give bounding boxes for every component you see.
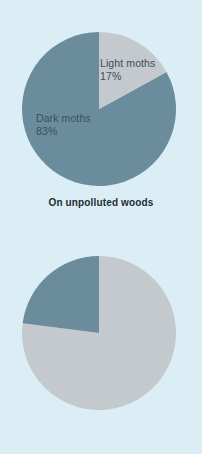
pie-label-light-unpolluted: Light moths 17% <box>100 57 155 82</box>
pie-label-light-unpolluted-percent: 17% <box>100 70 155 83</box>
pie-figure-unpolluted: Light moths 17% Dark moths 83% On unpoll… <box>0 0 202 227</box>
pie-label-dark-unpolluted: Dark moths 83% <box>36 112 91 137</box>
pie-svg-polluted <box>21 255 177 411</box>
pie-figure-polluted: Dark moths 23% Light moths 77% On pollut… <box>0 227 202 454</box>
pie-label-dark-unpolluted-percent: 83% <box>36 125 91 138</box>
pie-label-light-unpolluted-name: Light moths <box>100 57 155 69</box>
pie-chart-unpolluted <box>21 31 177 187</box>
pie-slice-dark-polluted <box>23 256 99 333</box>
pie-svg-unpolluted <box>21 31 177 187</box>
pie-caption-unpolluted: On unpolluted woods <box>0 197 202 208</box>
pie-chart-polluted <box>21 255 177 411</box>
pie-label-dark-unpolluted-name: Dark moths <box>36 112 91 124</box>
